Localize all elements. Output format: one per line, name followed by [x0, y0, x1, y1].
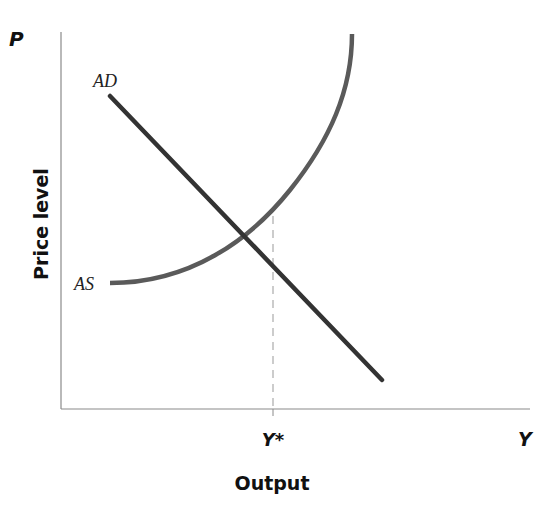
ad-label: AD: [92, 71, 117, 91]
ad-line: [110, 96, 382, 380]
x-axis-title: Output: [235, 472, 310, 494]
x-axis-symbol: Y: [518, 428, 534, 450]
ad-as-chart: P Price level AD AS Y* Y Output: [0, 0, 560, 514]
y-axis-symbol: P: [9, 27, 24, 51]
x-tick-label-ystar: Y*: [262, 429, 285, 450]
as-curve: [110, 34, 352, 283]
y-axis-title: Price level: [30, 168, 52, 280]
as-label: AS: [73, 274, 94, 294]
